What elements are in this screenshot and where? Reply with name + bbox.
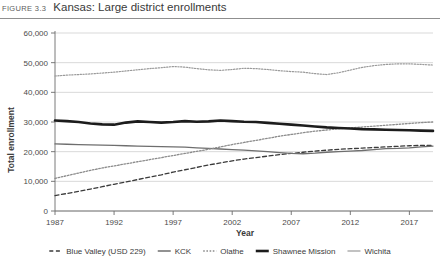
chart-legend: Blue Valley (USD 229)KCKOlatheShawnee Mi…	[49, 247, 391, 256]
legend-label: Shawnee Mission	[273, 247, 336, 256]
figure-title: Kansas: Large district enrollments	[53, 1, 226, 13]
data-series-group	[55, 64, 433, 196]
figure-number: FIGURE 3.3	[2, 1, 46, 13]
x-tick-label: 2007	[282, 218, 300, 227]
legend-label: Wichita	[364, 247, 391, 256]
enrollment-line-chart: 010,00020,00030,00040,00050,00060,000 19…	[0, 20, 440, 265]
y-tick-label: 60,000	[24, 29, 49, 38]
x-axis-label: Year	[236, 228, 255, 238]
series-line	[55, 64, 433, 76]
legend-label: KCK	[175, 247, 192, 256]
x-axis-tick-marks	[55, 211, 409, 215]
x-tick-label: 2017	[400, 218, 418, 227]
legend-label: Olathe	[220, 247, 244, 256]
legend-label: Blue Valley (USD 229)	[66, 247, 146, 256]
x-tick-label: 1987	[46, 218, 64, 227]
x-tick-label: 2012	[341, 218, 359, 227]
y-axis-tick-marks	[51, 33, 55, 211]
y-tick-label: 40,000	[24, 88, 49, 97]
y-axis-label: Total enrollment	[6, 107, 16, 173]
x-tick-label: 2002	[223, 218, 241, 227]
x-tick-label: 1997	[164, 218, 182, 227]
y-tick-label: 30,000	[24, 118, 49, 127]
y-axis-tick-labels: 010,00020,00030,00040,00050,00060,000	[24, 29, 49, 216]
y-tick-label: 10,000	[24, 177, 49, 186]
series-line	[55, 145, 433, 195]
chart-container: 010,00020,00030,00040,00050,00060,000 19…	[0, 20, 440, 265]
y-tick-label: 20,000	[24, 148, 49, 157]
y-tick-label: 0	[44, 207, 49, 216]
x-tick-label: 1992	[105, 218, 123, 227]
header-divider	[0, 18, 440, 19]
x-axis-tick-labels: 1987199219972002200720122017	[46, 218, 419, 227]
y-tick-label: 50,000	[24, 59, 49, 68]
series-line	[55, 144, 433, 154]
